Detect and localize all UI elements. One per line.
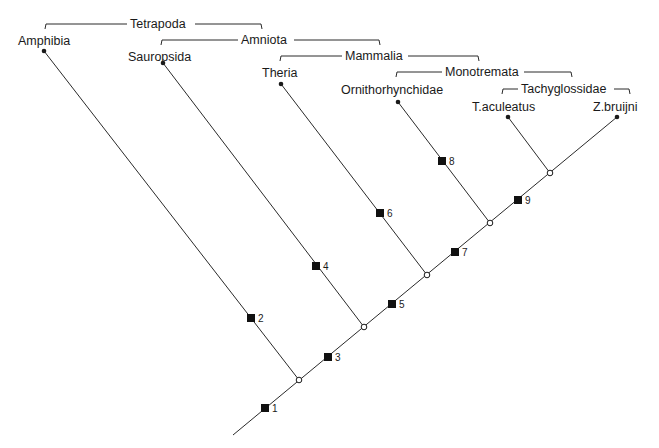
character-square-marker [388, 300, 396, 308]
character-number: 9 [525, 195, 531, 206]
taxon-label: Theria [262, 66, 297, 80]
taxon-label: Z.bruijni [593, 100, 637, 114]
node-circle [487, 220, 493, 226]
node-circle [424, 272, 430, 278]
character-number: 5 [399, 299, 405, 310]
node-circle [296, 377, 302, 383]
character-number: 8 [449, 156, 455, 167]
character-square-marker [261, 404, 269, 412]
character-square-marker [376, 209, 384, 217]
taxon-label: Sauropsida [128, 50, 191, 64]
character-number: 7 [462, 247, 468, 258]
clade-label: Monotremata [445, 65, 519, 79]
branch-line [163, 63, 364, 327]
character-number: 3 [335, 352, 341, 363]
character-number: 2 [258, 313, 264, 324]
taxon-tip-dot [615, 115, 620, 120]
character-square-marker [514, 196, 522, 204]
character-number: 4 [323, 261, 329, 272]
taxon-label: T.aculeatus [472, 100, 535, 114]
clade-label: Tetrapoda [130, 17, 186, 31]
cladogram: TetrapodaAmniotaMammaliaMonotremataTachy… [0, 0, 659, 448]
character-square-marker [438, 157, 446, 165]
character-square-marker [324, 353, 332, 361]
branch-line [44, 51, 299, 380]
taxon-tip-dot [42, 49, 47, 54]
character-square-marker [247, 314, 255, 322]
character-number: 6 [387, 208, 393, 219]
taxon-tip-dot [279, 82, 284, 87]
clade-label: Amniota [241, 33, 287, 47]
taxon-tip-dot [506, 115, 511, 120]
character-number: 1 [272, 403, 278, 414]
taxon-label: Ornithorhynchidae [341, 83, 443, 97]
branch-line [508, 117, 550, 173]
character-square-marker [451, 248, 459, 256]
clade-label: Tachyglossidae [521, 82, 607, 96]
node-circle [547, 170, 553, 176]
taxon-tip-dot [396, 100, 401, 105]
clade-label: Mammalia [345, 49, 403, 63]
node-circle [361, 324, 367, 330]
taxon-label: Amphibia [18, 34, 70, 48]
character-square-marker [312, 262, 320, 270]
